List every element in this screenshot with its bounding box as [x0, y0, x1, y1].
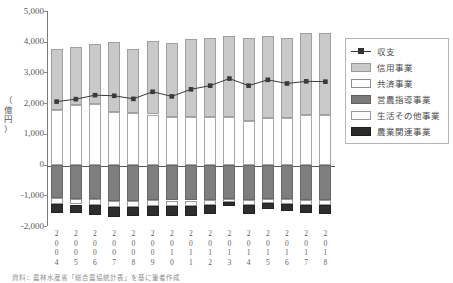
bar-segment: [51, 165, 63, 198]
bar-segment: [108, 165, 120, 201]
bar-segment: [262, 203, 274, 209]
bar-segment: [108, 207, 120, 217]
bar-segment: [300, 115, 312, 164]
bar-segment: [51, 204, 63, 214]
y-tick-label: -1,000: [10, 191, 44, 200]
legend-swatch-seikatsu-icon: [351, 111, 371, 120]
bar-segment: [223, 165, 235, 199]
bar-segment: [108, 112, 120, 165]
bar-segment: [70, 105, 82, 164]
bar-group: [262, 11, 274, 226]
x-tick-label: 2018: [316, 229, 335, 267]
legend-label: 営農指導事業: [377, 93, 431, 105]
bar-segment: [127, 165, 139, 201]
x-tick-label: 2004: [47, 229, 66, 267]
bar-segment: [223, 117, 235, 165]
bar-segment: [127, 207, 139, 217]
bar-group: [108, 11, 120, 226]
y-tick-label: -2,000: [10, 222, 44, 231]
bar-segment: [166, 43, 178, 117]
bar-group: [51, 11, 63, 226]
legend-swatch-nougyo-icon: [351, 127, 371, 136]
bar-segment: [89, 44, 101, 104]
bar-segment: [262, 165, 274, 199]
y-tick-label: 5,000: [10, 7, 44, 16]
bar-segment: [127, 113, 139, 165]
bar-group: [243, 11, 255, 226]
legend-item-seikatsu[interactable]: 生活その他事業: [351, 107, 444, 123]
y-tick-mark: [44, 165, 47, 166]
legend-item-nougyo[interactable]: 農業関連事業: [351, 123, 444, 139]
y-tick-mark: [44, 11, 47, 12]
bar-segment: [204, 205, 216, 214]
legend-label: 収支: [377, 45, 395, 57]
bar-segment: [262, 118, 274, 165]
bar-group: [89, 11, 101, 226]
x-tick-label: 2008: [124, 229, 143, 267]
bar-group: [300, 11, 312, 226]
bar-segment: [70, 47, 82, 105]
legend-item-line[interactable]: 収支: [351, 43, 444, 59]
legend-swatch-line-icon: [351, 47, 371, 56]
bar-segment: [281, 118, 293, 165]
bar-segment: [204, 165, 216, 200]
x-tick-label: 2015: [258, 229, 277, 267]
legend-item-einou[interactable]: 営農指導事業: [351, 91, 444, 107]
source-note: 資料：農林水産省「総合農協統計表」を基に筆者作成: [12, 272, 180, 282]
y-tick-label: 0: [10, 160, 44, 169]
y-axis-line: [47, 11, 48, 226]
y-tick-label: 4,000: [10, 37, 44, 46]
bar-segment: [70, 205, 82, 214]
legend-label: 信用事業: [377, 61, 413, 73]
x-tick-label: 2017: [297, 229, 316, 267]
bar-segment: [166, 165, 178, 201]
x-tick-label: 2011: [181, 229, 200, 267]
bar-segment: [300, 33, 312, 115]
y-tick-mark: [44, 72, 47, 73]
bar-segment: [319, 205, 331, 214]
bar-segment: [223, 202, 235, 206]
bar-segment: [281, 165, 293, 199]
bar-segment: [166, 206, 178, 216]
bar-segment: [166, 117, 178, 165]
chart-legend: 収支信用事業共済事業営農指導事業生活その他事業農業関連事業: [345, 38, 449, 144]
bar-segment: [300, 165, 312, 200]
y-tick-mark: [44, 226, 47, 227]
bar-segment: [281, 38, 293, 117]
bar-segment: [204, 117, 216, 164]
legend-item-shinyo[interactable]: 信用事業: [351, 59, 444, 75]
bar-segment: [185, 117, 197, 165]
y-tick-mark: [44, 42, 47, 43]
y-tick-label: 2,000: [10, 99, 44, 108]
bar-segment: [243, 165, 255, 200]
bar-segment: [281, 204, 293, 211]
x-tick-label: 2014: [239, 229, 258, 267]
bar-segment: [51, 110, 63, 165]
bar-segment: [204, 38, 216, 117]
legend-item-kyosai[interactable]: 共済事業: [351, 75, 444, 91]
bar-group: [319, 11, 331, 226]
bar-group: [185, 11, 197, 226]
bar-segment: [89, 104, 101, 165]
bar-segment: [70, 165, 82, 199]
bar-segment: [243, 38, 255, 121]
legend-label: 農業関連事業: [377, 125, 431, 137]
y-tick-mark: [44, 103, 47, 104]
bar-group: [127, 11, 139, 226]
y-tick-mark: [44, 134, 47, 135]
bar-group: [204, 11, 216, 226]
y-tick-label: 1,000: [10, 129, 44, 138]
bar-segment: [223, 36, 235, 116]
bar-segment: [108, 42, 120, 112]
bar-segment: [147, 41, 159, 115]
chart-container: （億円） 5,0004,0003,0002,0001,0000-1,000-2,…: [0, 0, 453, 283]
bar-segment: [185, 206, 197, 216]
bar-group: [70, 11, 82, 226]
bar-segment: [243, 121, 255, 165]
y-tick-label: 3,000: [10, 68, 44, 77]
bar-group: [223, 11, 235, 226]
bar-segment: [262, 36, 274, 118]
legend-label: 生活その他事業: [377, 109, 440, 121]
bar-segment: [243, 205, 255, 214]
bar-segment: [319, 33, 331, 116]
